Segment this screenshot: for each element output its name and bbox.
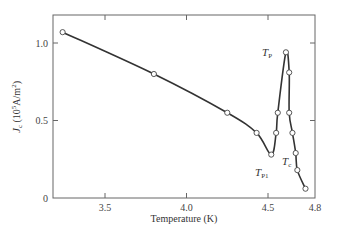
y-tick-label: 0 <box>43 193 48 204</box>
annotations: TPTP1Tc <box>255 46 291 180</box>
y-tick-label: 0.5 <box>36 115 49 126</box>
data-point <box>287 110 292 115</box>
x-tick-label: 4.0 <box>180 202 193 213</box>
chart-canvas: 3.54.04.54.800.51.0 TPTP1Tc Temperature … <box>0 0 339 239</box>
annotation-label: TP1 <box>255 166 269 180</box>
x-tick-label: 4.5 <box>262 202 275 213</box>
data-point <box>254 130 259 135</box>
x-tick-label: 4.8 <box>309 202 322 213</box>
data-point <box>287 70 292 75</box>
data-point <box>275 110 280 115</box>
data-point <box>274 130 279 135</box>
annotation-label: Tc <box>282 155 291 169</box>
data-point <box>283 50 288 55</box>
data-point <box>303 186 308 191</box>
data-point <box>151 71 156 76</box>
data-point <box>295 168 300 173</box>
y-axis-label: Jc (105A/m2) <box>10 81 24 133</box>
plot-frame <box>53 15 315 198</box>
data-point <box>293 150 298 155</box>
data-point <box>60 30 65 35</box>
data-point <box>225 110 230 115</box>
data-point <box>269 152 274 157</box>
y-tick-label: 1.0 <box>36 38 49 49</box>
x-axis-label: Temperature (K) <box>151 213 218 225</box>
x-tick-label: 3.5 <box>99 202 112 213</box>
data-point <box>290 130 295 135</box>
annotation-label: TP <box>262 46 272 60</box>
